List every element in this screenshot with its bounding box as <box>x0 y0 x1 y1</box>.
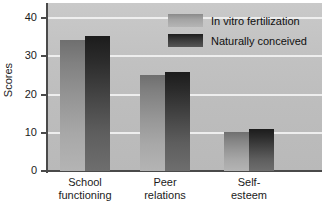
y-tick-label-0: 0 <box>31 164 37 176</box>
bar-natural-2 <box>249 129 274 171</box>
y-tick-40 <box>41 17 47 19</box>
bar-ivf-0 <box>60 40 85 171</box>
y-tick-label-40: 40 <box>25 11 37 23</box>
x-label-line: esteem <box>199 189 299 202</box>
y-tick-0 <box>41 170 47 172</box>
legend-item-natural: Naturally conceived <box>168 32 307 49</box>
bar-natural-0 <box>85 36 110 171</box>
y-axis-title: Scores <box>2 48 14 112</box>
y-axis-line <box>46 3 48 173</box>
y-tick-label-30: 30 <box>25 49 37 61</box>
bar-ivf-2 <box>224 132 249 171</box>
bar-ivf-1 <box>140 75 165 171</box>
legend-item-ivf: In vitro fertilization <box>168 12 307 29</box>
bar-chart-figure: 010203040 SchoolfunctioningPeerrelations… <box>0 0 324 209</box>
y-tick-label-10: 10 <box>25 126 37 138</box>
chart-legend: In vitro fertilization Naturally conceiv… <box>168 12 307 52</box>
bar-natural-1 <box>165 72 190 171</box>
legend-swatch-natural <box>168 34 203 47</box>
y-tick-label-20: 20 <box>25 88 37 100</box>
legend-label-ivf: In vitro fertilization <box>211 15 300 27</box>
x-axis-label-2: Self-esteem <box>199 176 299 202</box>
y-tick-30 <box>41 55 47 57</box>
y-tick-10 <box>41 132 47 134</box>
y-tick-20 <box>41 94 47 96</box>
legend-label-natural: Naturally conceived <box>211 35 307 47</box>
legend-swatch-ivf <box>168 14 203 27</box>
x-label-line: Self- <box>199 176 299 189</box>
